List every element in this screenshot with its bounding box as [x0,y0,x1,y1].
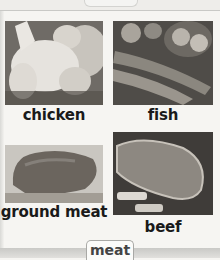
section-tab-meat[interactable]: meat [86,240,134,260]
item-label: ground meat [0,203,108,221]
beef-photo [113,132,213,215]
item-label: beef [113,218,213,236]
item-label: chicken [5,106,103,124]
item-label: fish [113,106,213,124]
chicken-photo [5,21,103,105]
top-section-tab [84,0,138,7]
ground-meat-photo [5,145,103,203]
fish-photo [113,21,213,105]
